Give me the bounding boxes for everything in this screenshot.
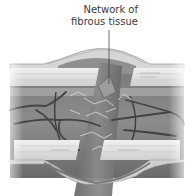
fibrous-tissue-illustration: [0, 0, 192, 196]
